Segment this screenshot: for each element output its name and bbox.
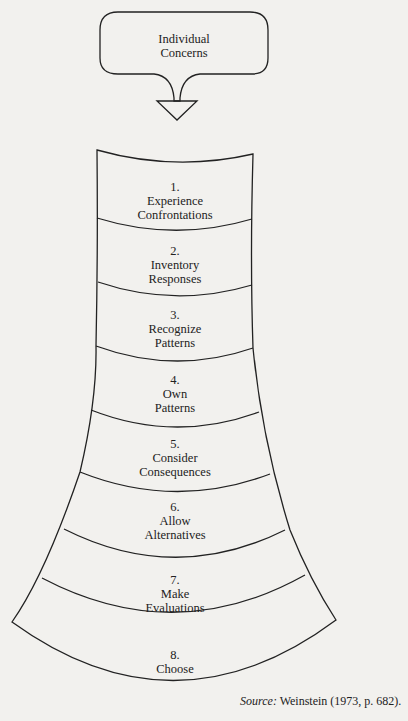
step-5: 5. Consider Consequences xyxy=(95,437,255,479)
bubble-line2: Concerns xyxy=(104,46,264,60)
step-2: 2. Inventory Responses xyxy=(95,244,255,286)
step-label-line1: Choose xyxy=(95,662,255,676)
step-label-line1: Inventory xyxy=(95,258,255,272)
step-label-line2: Patterns xyxy=(95,336,255,350)
step-1: 1. Experience Confrontations xyxy=(95,180,255,222)
step-label-line1: Consider xyxy=(95,451,255,465)
step-number: 5. xyxy=(95,437,255,451)
step-label-line2: Confrontations xyxy=(95,208,255,222)
step-7: 7. Make Evaluations xyxy=(95,573,255,615)
concerns-bubble: Individual Concerns xyxy=(104,32,264,60)
step-label-line2: Evaluations xyxy=(95,601,255,615)
step-number: 7. xyxy=(95,573,255,587)
step-number: 2. xyxy=(95,244,255,258)
step-label-line1: Allow xyxy=(95,514,255,528)
step-3: 3. Recognize Patterns xyxy=(95,308,255,350)
step-8: 8. Choose xyxy=(95,648,255,676)
step-number: 3. xyxy=(95,308,255,322)
step-label-line1: Experience xyxy=(95,194,255,208)
step-number: 1. xyxy=(95,180,255,194)
step-label-line2: Consequences xyxy=(95,465,255,479)
step-label-line2: Alternatives xyxy=(95,528,255,542)
step-label-line1: Make xyxy=(95,587,255,601)
step-6: 6. Allow Alternatives xyxy=(95,500,255,542)
step-number: 6. xyxy=(95,500,255,514)
step-label-line2: Responses xyxy=(95,272,255,286)
source-label: Source: xyxy=(240,694,277,708)
step-label-line1: Recognize xyxy=(95,322,255,336)
step-4: 4. Own Patterns xyxy=(95,373,255,415)
step-label-line1: Own xyxy=(95,387,255,401)
step-label-line2: Patterns xyxy=(95,401,255,415)
source-text: Weinstein (1973, p. 682). xyxy=(280,694,402,708)
bubble-line1: Individual xyxy=(104,32,264,46)
step-number: 8. xyxy=(95,648,255,662)
source-citation: Source: Weinstein (1973, p. 682). xyxy=(240,694,401,709)
down-arrow-icon xyxy=(157,101,197,120)
step-number: 4. xyxy=(95,373,255,387)
